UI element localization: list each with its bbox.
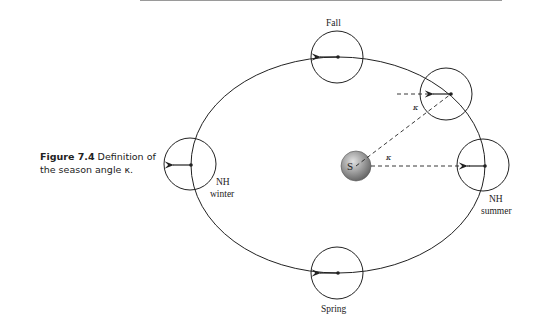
- orbit-ellipse: [191, 57, 485, 273]
- label-winter-nh: NH: [216, 177, 230, 187]
- earth-spring: [311, 247, 363, 299]
- season-angle-diagram: S κ κ Fall Spring NH winter NH summer: [0, 0, 536, 332]
- label-spring: Spring: [321, 304, 347, 314]
- label-winter: winter: [210, 189, 235, 199]
- label-summer-nh: NH: [489, 194, 503, 204]
- label-summer: summer: [481, 206, 512, 216]
- kappa-label-sun: κ: [385, 153, 392, 162]
- kappa-label-position: κ: [412, 103, 419, 112]
- sun-label: S: [347, 160, 353, 172]
- sun-to-position-line: [356, 94, 451, 166]
- earth-winter: [164, 138, 216, 190]
- earth-fall: [311, 31, 363, 83]
- label-fall: Fall: [326, 18, 341, 28]
